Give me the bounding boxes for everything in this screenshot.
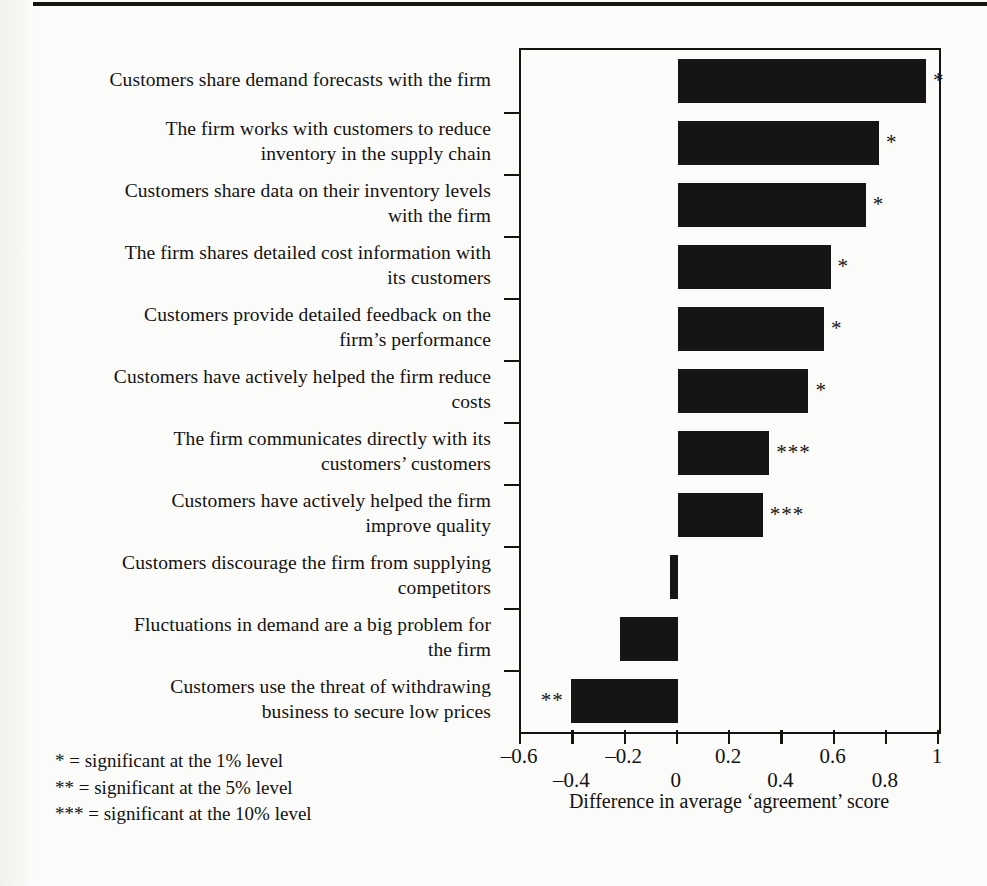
category-separator-tick-10 [504,670,521,672]
x-tick-label-0: –0.6 [501,746,538,767]
figure-bar-chart: Customers share demand forecasts with th… [0,0,987,886]
category-label-text: The firm works with customers to reducei… [165,116,491,166]
category-label-column: Customers share demand forecasts with th… [30,48,505,730]
significance-marker-5: * [831,318,843,339]
category-separator-tick-2 [504,174,521,176]
significance-marker-6: * [815,380,827,401]
category-label-text: Customers use the threat of withdrawingb… [170,674,491,724]
category-separator-tick-8 [504,546,521,548]
footnote-2: ** = significant at the 5% level [55,775,312,802]
x-tick-label-2: –0.2 [605,746,642,767]
category-separator-tick-1 [504,112,521,114]
x-tick-6 [833,730,835,744]
bar-2 [678,121,879,165]
bar-6 [678,369,809,413]
bar-4 [678,245,831,289]
x-axis: –0.6–0.4–0.200.20.40.60.81 [519,730,939,731]
x-axis-title: Difference in average ‘agreement’ score [519,790,939,813]
x-tick-2 [624,730,626,744]
x-tick-0 [519,730,521,744]
significance-marker-4: * [838,256,850,277]
category-separator-tick-3 [504,236,521,238]
x-tick-label-5: 0.4 [767,770,793,791]
x-tick-7 [885,730,887,744]
significance-marker-1: * [933,70,945,91]
x-tick-label-6: 0.6 [819,746,845,767]
category-label-text: Customers discourage the firm from suppl… [122,550,491,600]
bar-8 [678,493,763,537]
category-label-text: Customers provide detailed feedback on t… [144,302,491,352]
significance-marker-11: ** [541,690,564,711]
category-label-6: Customers have actively helped the firm … [30,358,505,420]
bar-3 [678,183,866,227]
footnote-3: *** = significant at the 10% level [55,801,312,828]
x-tick-3 [676,730,678,744]
footnote-1: * = significant at the 1% level [55,748,312,775]
category-separator-tick-6 [504,422,521,424]
category-label-8: Customers have actively helped the firmi… [30,482,505,544]
category-label-10: Fluctuations in demand are a big problem… [30,606,505,668]
x-tick-8 [937,730,939,744]
category-label-3: Customers share data on their inventory … [30,172,505,234]
category-separator-tick-5 [504,360,521,362]
significance-marker-7: *** [776,442,811,463]
bar-9 [670,555,678,599]
bar-1 [678,59,926,103]
category-label-9: Customers discourage the firm from suppl… [30,544,505,606]
x-tick-label-1: –0.4 [553,770,590,791]
x-tick-label-4: 0.2 [715,746,741,767]
category-label-text: The firm communicates directly with itsc… [174,426,491,476]
category-separator-tick-7 [504,484,521,486]
category-label-text: Fluctuations in demand are a big problem… [134,612,491,662]
category-label-7: The firm communicates directly with itsc… [30,420,505,482]
significance-marker-3: * [873,194,885,215]
significance-footnotes: * = significant at the 1% level** = sign… [55,748,312,828]
category-label-2: The firm works with customers to reducei… [30,110,505,172]
category-label-4: The firm shares detailed cost informatio… [30,234,505,296]
category-label-text: Customers have actively helped the firmi… [171,488,491,538]
category-label-5: Customers provide detailed feedback on t… [30,296,505,358]
bar-7 [678,431,769,475]
bar-5 [678,307,824,351]
category-separator-tick-4 [504,298,521,300]
x-tick-label-3: 0 [671,770,682,791]
category-label-text: The firm shares detailed cost informatio… [125,240,491,290]
bar-10 [620,617,677,661]
x-tick-label-7: 0.8 [872,770,898,791]
x-tick-1 [571,730,573,744]
x-tick-4 [728,730,730,744]
x-tick-label-8: 1 [932,746,943,767]
significance-marker-2: * [886,132,898,153]
category-label-1: Customers share demand forecasts with th… [30,48,505,110]
category-label-11: Customers use the threat of withdrawingb… [30,668,505,730]
bar-11 [571,679,678,723]
significance-marker-8: *** [770,504,805,525]
plot-area: ************** [519,48,941,734]
category-label-text: Customers share demand forecasts with th… [110,67,492,92]
category-label-text: Customers share data on their inventory … [125,178,491,228]
x-tick-5 [780,730,782,744]
category-label-text: Customers have actively helped the firm … [114,364,491,414]
category-separator-tick-9 [504,608,521,610]
